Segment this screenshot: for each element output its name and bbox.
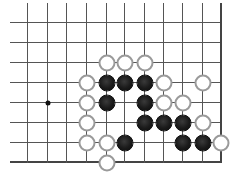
- black-stone: [136, 94, 153, 111]
- grid-line-vertical: [66, 3, 67, 163]
- white-stone: [136, 54, 153, 71]
- black-stone: [116, 74, 133, 91]
- black-stone: [136, 114, 153, 131]
- black-stone: [174, 114, 191, 131]
- black-stone: [194, 134, 211, 151]
- white-stone: [155, 74, 172, 91]
- white-stone: [155, 94, 172, 111]
- star-point: [45, 100, 50, 105]
- white-stone: [78, 74, 95, 91]
- grid-line-vertical: [47, 3, 48, 163]
- white-stone: [78, 134, 95, 151]
- white-stone: [194, 74, 211, 91]
- white-stone: [194, 114, 211, 131]
- board-edge-bottom: [10, 161, 221, 163]
- black-stone: [155, 114, 172, 131]
- white-stone: [98, 154, 115, 171]
- go-board: [0, 0, 233, 178]
- white-stone: [98, 54, 115, 71]
- black-stone: [174, 134, 191, 151]
- white-stone: [78, 114, 95, 131]
- white-stone: [212, 134, 229, 151]
- black-stone: [136, 74, 153, 91]
- white-stone: [78, 94, 95, 111]
- black-stone: [98, 94, 115, 111]
- grid-line-vertical: [27, 3, 28, 163]
- black-stone: [98, 74, 115, 91]
- white-stone: [116, 54, 133, 71]
- grid-line-horizontal: [10, 22, 221, 23]
- white-stone: [98, 134, 115, 151]
- black-stone: [116, 134, 133, 151]
- white-stone: [174, 94, 191, 111]
- grid-line-horizontal: [10, 42, 221, 43]
